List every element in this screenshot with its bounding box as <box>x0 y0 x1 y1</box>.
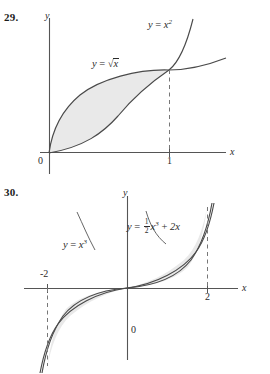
origin-label-29: 0 <box>38 155 43 166</box>
sqrt-glyph: √x <box>108 58 119 70</box>
problem-30: 30. <box>0 180 270 374</box>
curve-label-x-cubed-rhs: x3 <box>79 239 87 250</box>
x-tick-label-1-29: 1 <box>167 155 172 166</box>
curve-label-sqrt-x-eq: = <box>97 58 108 69</box>
curve-label-x-cubed: y = x3 <box>63 240 87 251</box>
curve-label-half-rhs: x3 + 2x <box>151 221 180 232</box>
x-axis-label-29: x <box>230 146 234 157</box>
origin-label-30: 0 <box>131 324 136 335</box>
problem-29: 29. y x 0 1 <box>0 0 270 180</box>
shaded-region-29 <box>49 70 169 153</box>
x-tick-label-2-30: 2 <box>205 291 210 302</box>
fraction-one-half: 12 <box>144 218 150 235</box>
y-axis-label-30: y <box>123 187 127 198</box>
curve-label-sqrt-x: y = √x <box>92 58 119 70</box>
curve-label-half-x-cubed-plus-2x: y = 12x3 + 2x <box>127 218 180 235</box>
x-tick-label-neg2-30: -2 <box>40 268 48 279</box>
x-axis-label-30: x <box>242 282 246 293</box>
y-axis-label-29: y <box>45 10 49 21</box>
curve-label-x-squared: y = x2 <box>148 20 172 31</box>
curve-label-x-squared-rhs: x2 <box>164 19 172 30</box>
textbook-figure-page: 29. y x 0 1 <box>0 0 270 374</box>
